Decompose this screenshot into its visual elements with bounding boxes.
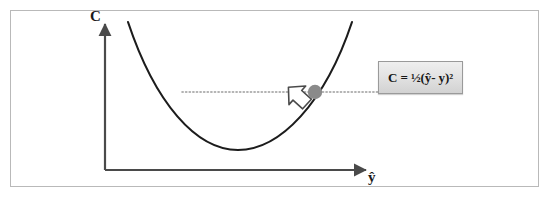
ball: [308, 85, 322, 99]
figure-root: C ŷ C = ½(ŷ- y)²: [0, 0, 550, 198]
cost-curve-plot: [0, 0, 550, 198]
cost-formula-text: C = ½(ŷ- y)²: [388, 70, 453, 86]
cost-formula-callout: C = ½(ŷ- y)²: [378, 61, 463, 94]
y-axis-label: C: [90, 9, 101, 24]
x-axis-label: ŷ: [368, 170, 376, 185]
